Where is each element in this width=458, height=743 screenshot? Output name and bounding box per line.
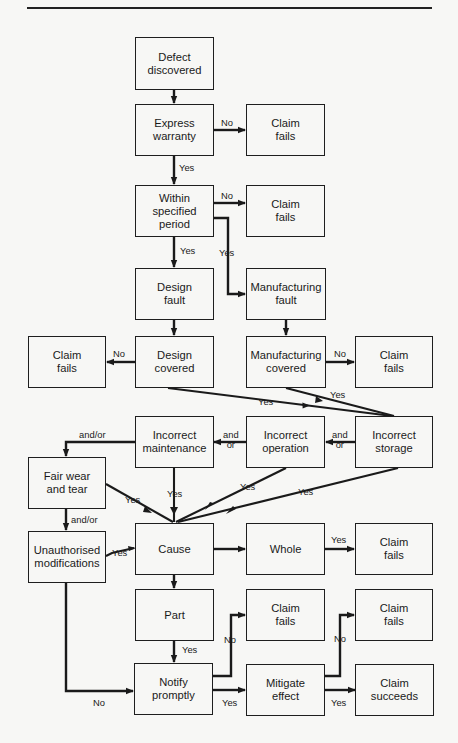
label-fairwear-yes: Yes [125,495,140,505]
node-cause: Cause [135,523,214,575]
label-mfgcovered-yes: Yes [330,390,345,400]
label-designcovered-no: No [113,349,125,359]
label-mitigate-no: No [334,634,346,644]
node-claim-fails-3: Claim fails [28,336,106,388]
label-designcovered-yes: Yes [258,397,273,407]
node-part: Part [135,589,214,641]
node-claim-fails-2: Claim fails [246,185,325,237]
edge-maintenance-to-fairwear [66,442,135,456]
node-claim-fails-6: Claim fails [246,589,325,641]
node-fair-wear: Fair wear and tear [28,457,106,509]
label-maintenance-yes: Yes [167,489,182,499]
label-storage-yes: Yes [298,487,313,497]
label-express-no: No [221,118,233,128]
node-label: Claim fails [271,198,300,224]
edge-storage-yes [178,468,398,522]
node-claim-fails-7: Claim fails [355,589,433,641]
label-whole-yes: Yes [331,535,346,545]
node-manufacturing-covered: Manufacturing covered [246,336,326,388]
label-storage-andor: and or [332,430,348,450]
node-unauthorised-modifications: Unauthorised modifications [28,531,106,583]
node-label: Claim succeeds [371,677,418,703]
node-label: Cause [158,543,190,556]
edge-mitigate-no [325,615,354,676]
node-label: Express warranty [153,117,196,143]
node-label: Incorrect maintenance [142,429,206,455]
node-label: Design fault [157,281,192,307]
node-claim-fails-4: Claim fails [355,336,433,388]
node-manufacturing-fault: Manufacturing fault [246,268,326,320]
edge-notify-no [213,615,245,676]
node-label: Mitigate effect [266,677,305,703]
label-maintenance-andor: and/or [79,430,106,440]
node-label: Manufacturing covered [251,349,322,375]
label-notify-yes: Yes [222,698,237,708]
node-label: Fair wear and tear [44,470,91,496]
node-incorrect-storage: Incorrect storage [355,416,433,468]
node-label: Design covered [155,349,195,375]
edge-unauth-no [66,582,133,691]
node-label: Part [164,609,185,622]
node-design-covered: Design covered [135,336,214,388]
label-express-yes: Yes [179,163,194,173]
label-within-yes-design: Yes [180,246,195,256]
edge-designcovered-yes [168,388,392,416]
node-label: Claim fails [271,602,300,628]
node-label: Manufacturing fault [251,281,322,307]
label-notify-no: No [224,635,236,645]
node-notify-promptly: Notify promptly [134,663,213,715]
node-claim-fails-1: Claim fails [246,104,325,156]
node-label: Unauthorised modifications [34,544,101,570]
label-unauth-yes: Yes [112,548,127,558]
label-mitigate-yes: Yes [331,698,346,708]
node-mitigate-effect: Mitigate effect [246,664,325,716]
label-part-yes: Yes [182,645,197,655]
node-label: Whole [270,543,302,556]
node-defect-discovered: Defect discovered [135,37,214,90]
node-incorrect-operation: Incorrect operation [246,416,325,468]
label-operation-yes: Yes [240,482,255,492]
label-operation-andor: and or [223,430,239,450]
node-label: Incorrect operation [262,429,309,455]
node-within-period: Within specified period [135,185,214,237]
node-claim-succeeds: Claim succeeds [355,664,434,716]
label-unauth-no: No [93,698,105,708]
node-label: Claim fails [53,349,82,375]
node-incorrect-maintenance: Incorrect maintenance [135,416,214,468]
node-label: Within specified period [152,192,196,231]
node-label: Claim fails [271,117,300,143]
node-label: Notify promptly [152,676,195,702]
node-design-fault: Design fault [135,268,214,320]
node-label: Claim fails [380,602,409,628]
label-fairwear-andor: and/or [71,515,98,525]
edge-operation-yes [176,468,286,522]
label-within-yes-mfg: Yes [219,248,234,258]
node-label: Defect discovered [147,51,201,77]
node-label: Claim fails [380,349,409,375]
node-whole: Whole [246,523,325,575]
label-mfgcovered-no: No [334,349,346,359]
node-express-warranty: Express warranty [135,104,214,156]
label-within-no: No [221,191,233,201]
node-claim-fails-5: Claim fails [355,523,433,575]
node-label: Claim fails [380,536,409,562]
node-label: Incorrect storage [372,429,416,455]
